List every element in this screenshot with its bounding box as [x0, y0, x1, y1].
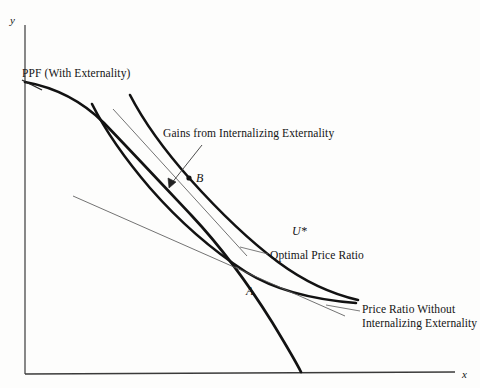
point-b-label: B	[196, 172, 203, 185]
x-axis	[25, 372, 455, 374]
gains-label: Gains from Internalizing Externality	[163, 127, 334, 140]
price-ratio-without-label-line2: Internalizing Externality	[362, 316, 477, 330]
ppf-externality-figure: y x PPF (With Externality) Gains from In…	[0, 0, 480, 388]
u-star-label: U*	[292, 225, 307, 238]
point-b-marker	[186, 175, 191, 180]
ppf-curve	[25, 82, 301, 372]
ppf-label: PPF (With Externality)	[22, 67, 130, 80]
y-axis-label: y	[10, 14, 15, 27]
optimal-price-ratio-label: Optimal Price Ratio	[270, 249, 364, 262]
price-ratio-without-label-line1: Price Ratio Without	[362, 302, 455, 316]
point-a-label: A	[246, 285, 253, 298]
x-axis-label: x	[462, 368, 467, 381]
